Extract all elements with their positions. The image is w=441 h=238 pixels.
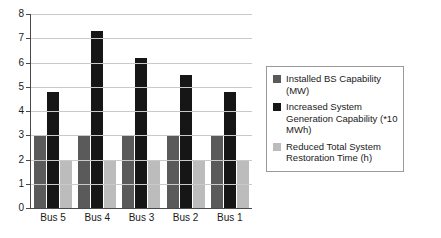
y-tick-label: 8 [0, 9, 24, 19]
y-tick-label: 7 [0, 33, 24, 43]
y-tick-label: 4 [0, 106, 24, 116]
chart-legend: Installed BS Capability (MW) Increased S… [266, 66, 404, 172]
y-tick-label: 0 [0, 203, 24, 213]
x-tick-label: Bus 1 [208, 212, 252, 232]
y-axis-tick [26, 135, 30, 136]
legend-item: Reduced Total System Restoration Time (h… [273, 141, 398, 164]
bar [34, 135, 46, 208]
gridline [31, 184, 252, 185]
bar [135, 58, 147, 208]
x-tick-label: Bus 5 [31, 212, 75, 232]
legend-item: Increased System Generation Capability (… [273, 101, 398, 136]
y-axis-tick [26, 14, 30, 15]
y-axis-tick [26, 208, 30, 209]
bar [47, 92, 59, 208]
legend-item: Installed BS Capability (MW) [273, 73, 398, 96]
gridline [31, 38, 252, 39]
legend-swatch-icon [273, 103, 281, 111]
x-axis-line [30, 208, 252, 209]
legend-item-label: Installed BS Capability (MW) [286, 73, 398, 96]
bar [91, 31, 103, 208]
bar [167, 135, 179, 208]
gridline [31, 87, 252, 88]
plot-area: 012345678 Bus 5Bus 4Bus 3Bus 2Bus 1 [0, 0, 262, 238]
legend-item-label: Increased System Generation Capability (… [286, 101, 398, 136]
y-tick-label: 3 [0, 130, 24, 140]
gridline [31, 160, 252, 161]
y-tick-label: 5 [0, 82, 24, 92]
y-axis-tick [26, 87, 30, 88]
y-axis-tick [26, 184, 30, 185]
y-axis-tick [26, 160, 30, 161]
bar [211, 135, 223, 208]
x-tick-label: Bus 4 [75, 212, 119, 232]
y-axis-tick [26, 38, 30, 39]
x-axis-tick-labels: Bus 5Bus 4Bus 3Bus 2Bus 1 [31, 212, 252, 232]
y-axis-tick-labels: 012345678 [0, 0, 24, 238]
gridline [31, 63, 252, 64]
chart-figure: 012345678 Bus 5Bus 4Bus 3Bus 2Bus 1 Inst… [0, 0, 441, 238]
legend-item-label: Reduced Total System Restoration Time (h… [286, 141, 398, 164]
gridline [31, 14, 252, 15]
bar [224, 92, 236, 208]
y-axis-tick [26, 111, 30, 112]
y-tick-label: 1 [0, 179, 24, 189]
y-tick-label: 2 [0, 155, 24, 165]
bar [180, 75, 192, 208]
bar [78, 135, 90, 208]
gridline [31, 135, 252, 136]
y-axis-tick [26, 63, 30, 64]
x-tick-label: Bus 2 [164, 212, 208, 232]
gridline [31, 111, 252, 112]
x-tick-label: Bus 3 [119, 212, 163, 232]
y-tick-label: 6 [0, 58, 24, 68]
legend-swatch-icon [273, 75, 281, 83]
bar [122, 135, 134, 208]
legend-swatch-icon [273, 143, 281, 151]
